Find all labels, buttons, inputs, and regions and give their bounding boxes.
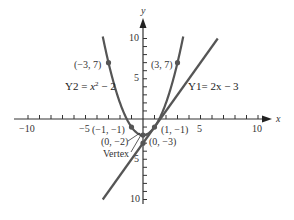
x-axis-arrow-icon	[262, 116, 272, 123]
point-marker	[175, 60, 180, 65]
point-label-0-neg3: (0, −3)	[149, 136, 176, 148]
point-label-neg1-neg1: (−1, −1)	[92, 124, 125, 136]
point-marker	[106, 60, 111, 65]
equation-y2-suffix: − 2	[99, 80, 116, 92]
equation-y2: Y2 = x2 − 2	[65, 80, 116, 92]
tick-label-x-5: 5	[197, 123, 202, 134]
point-label-0-neg2: (0, −2)	[101, 136, 128, 148]
tick-label-y-10: 10	[129, 32, 139, 43]
tick-label-x-neg10: −10	[19, 123, 35, 134]
point-marker	[140, 141, 145, 146]
point-label-3-7: (3, 7)	[151, 59, 173, 71]
point-marker	[129, 124, 134, 129]
coordinate-plane: x y −10 −5 5 10 10 5 5 10 (−3, 7) (3, 7)…	[0, 0, 294, 220]
x-axis-label: x	[275, 113, 281, 124]
equation-y2-prefix: Y2 =	[65, 80, 90, 92]
graph-figure: x y −10 −5 5 10 10 5 5 10 (−3, 7) (3, 7)…	[0, 0, 294, 220]
y-axis-arrow-icon	[140, 18, 147, 28]
tick-label-y-5: 5	[134, 72, 139, 83]
vertex-annotation: Vertex	[103, 148, 129, 159]
tick-label-x-neg5: −5	[79, 123, 90, 134]
equation-y1: Y1= 2x − 3	[188, 80, 239, 92]
point-marker	[140, 133, 145, 138]
tick-label-x-10: 10	[252, 123, 262, 134]
y-axis-label: y	[140, 5, 146, 16]
point-marker	[152, 124, 157, 129]
point-label-neg3-7: (−3, 7)	[74, 59, 101, 71]
point-label-1-neg1: (1, −1)	[161, 124, 188, 136]
tick-label-y-neg10: 10	[130, 193, 140, 204]
